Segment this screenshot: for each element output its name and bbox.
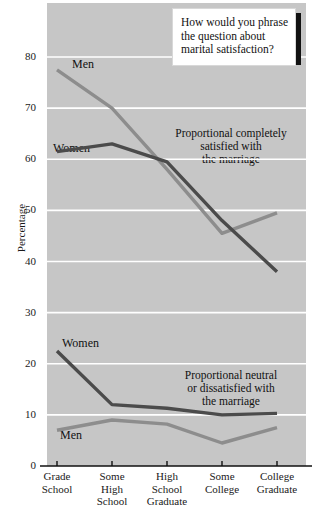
- callout-box: How would you phrase the question about …: [172, 8, 296, 66]
- plot-canvas: [0, 0, 316, 509]
- marital-satisfaction-chart: Percentage 01020304050607080 GradeSchool…: [0, 0, 316, 509]
